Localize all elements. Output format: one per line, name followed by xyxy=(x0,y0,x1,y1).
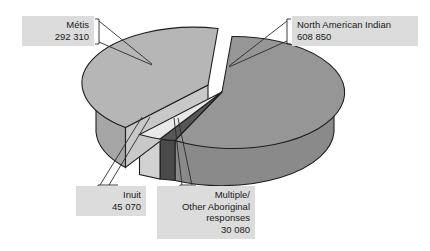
label-box-north-american-indian: North American Indian 608 850 xyxy=(292,16,418,46)
label-metis-value: 292 310 xyxy=(27,31,89,43)
label-metis-name: Métis xyxy=(27,19,89,31)
label-box-multiple-other: Multiple/ Other Aboriginal responses 30 … xyxy=(157,186,255,239)
label-multiple-line1: Multiple/ xyxy=(162,189,250,201)
label-inuit-name: Inuit xyxy=(81,189,141,201)
label-nai-name: North American Indian xyxy=(297,19,413,31)
leader-nai-bracket xyxy=(287,19,291,44)
label-box-metis: Métis 292 310 xyxy=(22,16,94,46)
label-box-inuit: Inuit 45 070 xyxy=(76,186,146,216)
label-nai-value: 608 850 xyxy=(297,31,413,43)
pie-chart-figure: Métis 292 310 North American Indian 608 … xyxy=(0,0,430,251)
label-multiple-value: 30 080 xyxy=(162,224,250,236)
leader-metis-bracket xyxy=(95,19,99,44)
label-multiple-line3: responses xyxy=(162,212,250,224)
slice-wall-multiple-other xyxy=(160,139,175,181)
label-inuit-value: 45 070 xyxy=(81,201,141,213)
label-multiple-line2: Other Aboriginal xyxy=(162,201,250,213)
pie-3d-body xyxy=(82,27,345,185)
